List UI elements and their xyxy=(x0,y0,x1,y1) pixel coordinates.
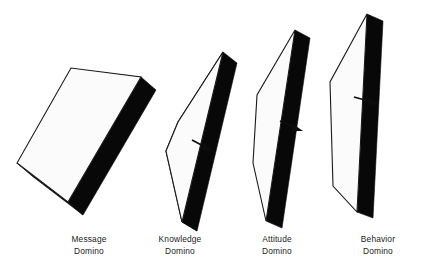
label-attitude-line1: Attitude xyxy=(237,234,317,246)
label-attitude-line2: Domino xyxy=(237,246,317,258)
label-knowledge-line2: Domino xyxy=(135,246,225,258)
domino-diagram xyxy=(0,0,448,270)
domino-message xyxy=(17,68,156,215)
label-message-line1: Message xyxy=(49,234,129,246)
domino-knowledge xyxy=(166,52,237,231)
arrow-head xyxy=(292,124,303,131)
label-message-line2: Domino xyxy=(49,246,129,258)
domino-behavior xyxy=(330,14,383,218)
label-knowledge-domino: Knowledge Domino xyxy=(135,234,225,257)
label-attitude-domino: Attitude Domino xyxy=(237,234,317,257)
label-message-domino: Message Domino xyxy=(49,234,129,257)
label-behavior-line1: Behavior xyxy=(337,234,419,246)
label-behavior-line2: Domino xyxy=(337,246,419,258)
label-knowledge-line1: Knowledge xyxy=(135,234,225,246)
domino-attitude xyxy=(253,30,310,228)
label-behavior-domino: Behavior Domino xyxy=(337,234,419,257)
